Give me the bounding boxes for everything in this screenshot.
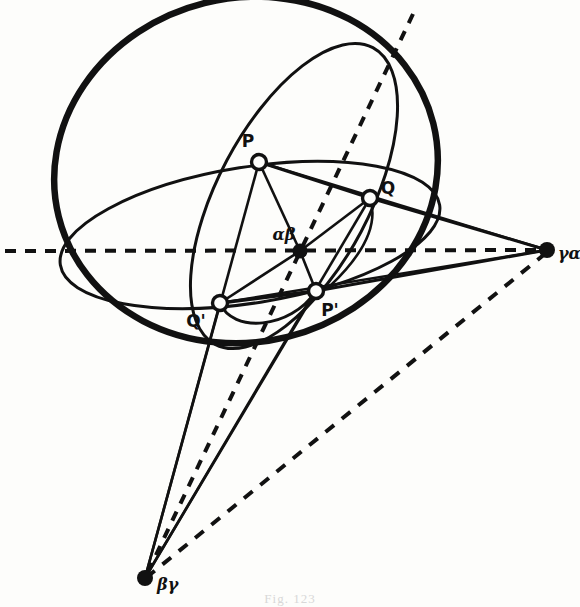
sphere-projective-diagram: P Q Q' P' αβ γα βγ	[0, 0, 580, 607]
label-P: P	[242, 131, 254, 151]
figure-caption: Fig. 123	[0, 591, 580, 607]
point-marker-beta-gamma	[137, 570, 153, 586]
figure-canvas: P Q Q' P' αβ γα βγ Fig. 123	[0, 0, 580, 607]
label-P-prime: P'	[321, 300, 339, 320]
figure-background	[0, 0, 580, 607]
point-marker-alpha-beta	[293, 244, 308, 259]
point-marker-Q	[363, 191, 378, 206]
point-marker-P-prime	[309, 284, 324, 299]
point-marker-gamma-alpha	[539, 242, 555, 258]
point-marker-P	[252, 155, 267, 170]
label-gamma-alpha: γα	[558, 244, 580, 263]
label-alpha-beta: αβ	[273, 225, 296, 244]
label-Q-prime: Q'	[186, 311, 206, 331]
label-Q: Q	[381, 178, 395, 198]
point-marker-Q-prime	[213, 296, 228, 311]
